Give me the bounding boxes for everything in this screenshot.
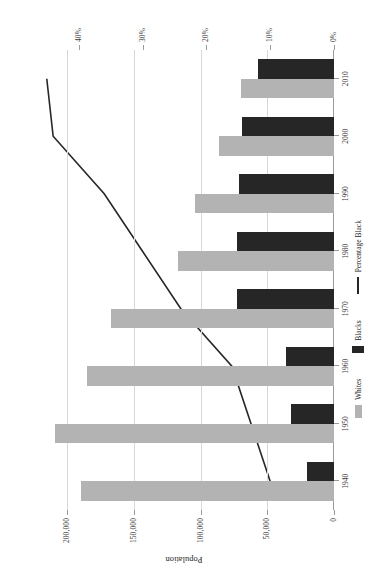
year-label: 1950: [341, 416, 350, 431]
legend-label-whites: Whites: [354, 379, 363, 400]
bar-whites: [55, 424, 334, 443]
bar-whites: [81, 481, 334, 500]
year-tick: [334, 135, 339, 136]
percentage-tick-label: 10%: [265, 28, 274, 42]
plot-area: 050,000100,000150,000200,0000%10%20%30%4…: [34, 50, 334, 510]
year-label: 1990: [341, 186, 350, 201]
population-tick: [334, 510, 335, 515]
bar-blacks: [258, 60, 334, 79]
line-swatch-icon: [357, 277, 359, 294]
legend-item-whites[interactable]: Whites: [354, 379, 363, 418]
population-tick: [67, 510, 68, 515]
year-tick: [334, 480, 339, 481]
percentage-tick-label: 0%: [329, 32, 338, 42]
bar-whites: [219, 136, 334, 155]
percentage-tick: [334, 45, 335, 50]
bar-whites: [111, 309, 334, 328]
bar-whites: [178, 251, 334, 270]
year-tick: [334, 423, 339, 424]
bar-blacks: [286, 347, 334, 366]
year-label: 1970: [341, 301, 350, 316]
year-label: 2010: [341, 71, 350, 86]
bar-blacks: [237, 232, 334, 251]
whites-swatch-icon: [355, 405, 362, 418]
population-tick-label: 100,000: [196, 518, 205, 543]
percentage-tick: [270, 45, 271, 50]
legend-item-blacks[interactable]: Blacks: [352, 320, 364, 352]
year-tick: [334, 193, 339, 194]
year-tick: [334, 250, 339, 251]
population-tick: [201, 510, 202, 515]
percentage-tick-label: 40%: [74, 28, 83, 42]
bar-blacks: [239, 175, 334, 194]
year-label: 1960: [341, 359, 350, 374]
chart-legend: Whites Blacks Percentage Black: [352, 220, 364, 418]
bar-whites: [195, 194, 334, 213]
population-tick: [267, 510, 268, 515]
chart-figure: Population Percentage black 050,000100,0…: [0, 0, 373, 568]
blacks-swatch-icon: [352, 346, 364, 353]
year-tick: [334, 78, 339, 79]
legend-item-percentage-black[interactable]: Percentage Black: [354, 220, 363, 294]
population-tick-label: 50,000: [262, 518, 271, 539]
population-axis-title: Population: [166, 555, 203, 565]
year-label: 2000: [341, 129, 350, 144]
year-tick: [334, 308, 339, 309]
percentage-tick: [79, 45, 80, 50]
bar-blacks: [242, 117, 334, 136]
population-tick-label: 0: [329, 518, 338, 522]
year-label: 1940: [341, 474, 350, 489]
bar-whites: [241, 79, 334, 98]
bar-whites: [87, 366, 334, 385]
year-label: 1980: [341, 244, 350, 259]
percentage-tick-label: 30%: [138, 28, 147, 42]
percentage-tick: [206, 45, 207, 50]
bar-blacks: [291, 405, 334, 424]
legend-label-blacks: Blacks: [354, 320, 363, 340]
population-tick: [134, 510, 135, 515]
percentage-tick-label: 20%: [201, 28, 210, 42]
population-tick-label: 200,000: [62, 518, 71, 543]
year-tick: [334, 365, 339, 366]
percentage-tick: [143, 45, 144, 50]
rotated-figure-wrapper: Population Percentage black 050,000100,0…: [0, 0, 373, 568]
bar-blacks: [307, 462, 334, 481]
bar-blacks: [237, 290, 334, 309]
population-tick-label: 150,000: [129, 518, 138, 543]
legend-label-percentage-black: Percentage Black: [354, 220, 363, 272]
